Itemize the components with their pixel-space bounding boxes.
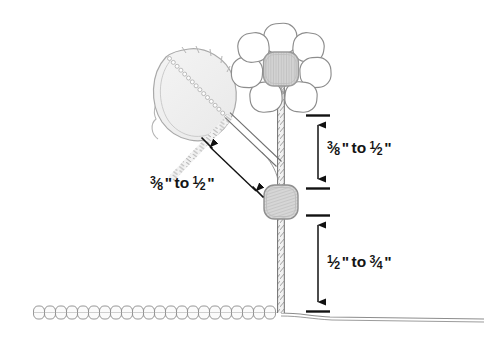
middle-bead <box>264 185 298 219</box>
range-connector: to <box>349 139 369 156</box>
flower-head <box>231 20 332 113</box>
fraction-one-half: 1⁄2 <box>369 140 384 156</box>
inch-mark: " <box>207 174 215 191</box>
range-connector: to <box>349 253 369 270</box>
dimension-label-left-diagonal: 3⁄8"to1⁄2" <box>150 175 215 191</box>
dimension-label-lower-right: 1⁄2"to3⁄4" <box>327 254 392 270</box>
diagram-svg <box>0 0 486 344</box>
fraction-one-half: 1⁄2 <box>327 254 342 270</box>
inch-mark: " <box>384 253 392 270</box>
fraction-three-eighths: 3⁄8 <box>327 140 342 156</box>
dimension-label-upper-right: 3⁄8"to1⁄2" <box>327 140 392 156</box>
flower-center-bead <box>264 52 299 86</box>
inch-mark: " <box>384 139 392 156</box>
diagram-canvas: 3⁄8"to1⁄2" 1⁄2"to3⁄4" 3⁄8"to1⁄2" <box>0 0 486 344</box>
fraction-three-quarters: 3⁄4 <box>369 254 384 270</box>
range-connector: to <box>172 174 192 191</box>
ground-bead-row <box>33 306 277 319</box>
fraction-one-half: 1⁄2 <box>192 175 207 191</box>
ground-thread <box>281 313 484 322</box>
fraction-three-eighths: 3⁄8 <box>150 175 165 191</box>
